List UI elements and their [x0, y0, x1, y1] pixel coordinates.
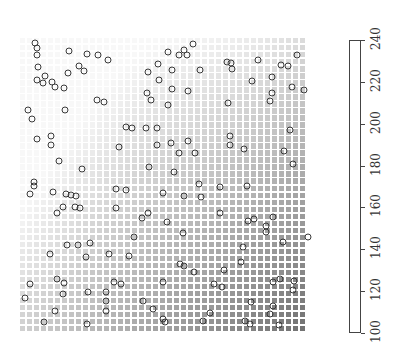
heatmap-cell: [300, 59, 305, 64]
heatmap-cell: [125, 164, 130, 169]
heatmap-cell: [111, 312, 116, 317]
heatmap-cell: [97, 326, 102, 331]
heatmap-cell: [104, 270, 109, 275]
heatmap-cell: [293, 228, 298, 233]
heatmap-cell: [251, 129, 256, 134]
heatmap-cell: [237, 207, 242, 212]
heatmap-cell: [160, 101, 165, 106]
heatmap-cell: [174, 171, 179, 176]
heatmap-cell: [237, 122, 242, 127]
heatmap-cell: [223, 101, 228, 106]
heatmap-cell: [132, 164, 137, 169]
heatmap-cell: [181, 94, 186, 99]
heatmap-cell: [265, 150, 270, 155]
heatmap-cell: [293, 214, 298, 219]
heatmap-cell: [97, 284, 102, 289]
heatmap-cell: [293, 270, 298, 275]
heatmap-cell: [237, 171, 242, 176]
heatmap-cell: [251, 115, 256, 120]
heatmap-cell: [118, 94, 123, 99]
heatmap-cell: [125, 242, 130, 247]
heatmap-cell: [230, 87, 235, 92]
heatmap-cell: [118, 129, 123, 134]
heatmap-cell: [97, 87, 102, 92]
heatmap-cell: [251, 122, 256, 127]
heatmap-cell: [83, 193, 88, 198]
heatmap-cell: [216, 59, 221, 64]
heatmap-cell: [153, 228, 158, 233]
heatmap-cell: [160, 59, 165, 64]
heatmap-cell: [223, 186, 228, 191]
heatmap-cell: [202, 298, 207, 303]
heatmap-cell: [55, 94, 60, 99]
heatmap-cell: [118, 235, 123, 240]
heatmap-cell: [69, 228, 74, 233]
heatmap-cell: [34, 228, 39, 233]
heatmap-cell: [265, 186, 270, 191]
heatmap-cell: [230, 193, 235, 198]
heatmap-cell: [202, 291, 207, 296]
heatmap-cell: [132, 235, 137, 240]
heatmap-cell: [223, 129, 228, 134]
heatmap-cell: [209, 319, 214, 324]
heatmap-cell: [90, 115, 95, 120]
heatmap-cell: [132, 200, 137, 205]
heatmap-cell: [41, 157, 46, 162]
heatmap-cell: [20, 270, 25, 275]
heatmap-cell: [216, 256, 221, 261]
heatmap-cell: [132, 87, 137, 92]
heatmap-cell: [272, 319, 277, 324]
heatmap-cell: [195, 326, 200, 331]
heatmap-cell: [118, 150, 123, 155]
heatmap-cell: [160, 326, 165, 331]
heatmap-cell: [34, 101, 39, 106]
heatmap-cell: [41, 186, 46, 191]
heatmap-cell: [265, 164, 270, 169]
heatmap-cell: [83, 136, 88, 141]
heatmap-cell: [195, 200, 200, 205]
heatmap-cell: [97, 94, 102, 99]
heatmap-cell: [90, 228, 95, 233]
heatmap-cell: [69, 319, 74, 324]
heatmap-cell: [286, 235, 291, 240]
heatmap-cell: [55, 256, 60, 261]
heatmap-cell: [104, 284, 109, 289]
heatmap-cell: [111, 291, 116, 296]
heatmap-cell: [48, 291, 53, 296]
heatmap-cell: [188, 256, 193, 261]
heatmap-cell: [139, 270, 144, 275]
heatmap-cell: [195, 108, 200, 113]
heatmap-cell: [223, 178, 228, 183]
heatmap-cell: [76, 270, 81, 275]
heatmap-cell: [181, 326, 186, 331]
heatmap-cell: [139, 186, 144, 191]
heatmap-cell: [111, 150, 116, 155]
heatmap-cell: [20, 122, 25, 127]
heatmap-cell: [195, 59, 200, 64]
heatmap-cell: [104, 242, 109, 247]
heatmap-cell: [104, 80, 109, 85]
heatmap-cell: [230, 171, 235, 176]
heatmap-cell: [27, 242, 32, 247]
heatmap-cell: [272, 101, 277, 106]
heatmap-cell: [188, 263, 193, 268]
heatmap-cell: [279, 38, 284, 43]
heatmap-cell: [237, 221, 242, 226]
heatmap-cell: [293, 235, 298, 240]
heatmap-cell: [41, 326, 46, 331]
heatmap-cell: [27, 305, 32, 310]
heatmap-cell: [27, 207, 32, 212]
heatmap-cell: [153, 200, 158, 205]
heatmap-cell: [293, 136, 298, 141]
heatmap-cell: [181, 129, 186, 134]
heatmap-cell: [167, 80, 172, 85]
heatmap-cell: [153, 80, 158, 85]
heatmap-cell: [279, 270, 284, 275]
heatmap-cell: [146, 73, 151, 78]
heatmap-cell: [146, 87, 151, 92]
heatmap-cell: [216, 129, 221, 134]
heatmap-cell: [181, 157, 186, 162]
heatmap-cell: [286, 221, 291, 226]
heatmap-cell: [258, 228, 263, 233]
heatmap-cell: [139, 122, 144, 127]
